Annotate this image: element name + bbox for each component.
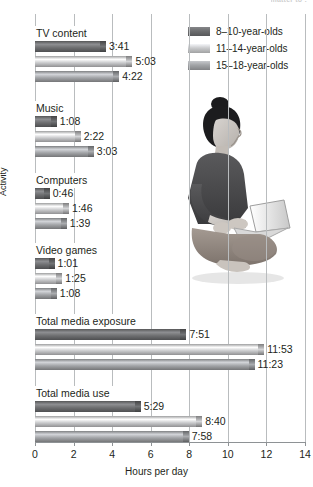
- x-tick: [35, 442, 36, 446]
- x-tick-label: 2: [71, 448, 77, 460]
- bar-value-label: 1:01: [58, 257, 78, 269]
- bar[interactable]: [35, 71, 119, 82]
- gridline: [266, 14, 267, 442]
- bar[interactable]: [35, 146, 94, 157]
- x-tick: [74, 442, 75, 446]
- bar[interactable]: [35, 131, 81, 142]
- bar-end-cap: [44, 188, 50, 199]
- bar-value-label: 1:08: [60, 287, 80, 299]
- x-tick-label: 6: [148, 448, 154, 460]
- bar-end-cap: [183, 431, 189, 442]
- bar-end-cap: [75, 131, 81, 142]
- group-label: Total media use: [33, 386, 114, 401]
- bar[interactable]: [35, 56, 132, 67]
- bar[interactable]: [35, 188, 50, 199]
- x-tick: [266, 442, 267, 446]
- bar-value-label: 1:08: [60, 115, 80, 127]
- bar[interactable]: [35, 329, 186, 340]
- bar-value-label: 11:23: [258, 358, 284, 370]
- y-axis-label: Activity: [0, 167, 8, 196]
- group-label: Music: [33, 101, 67, 116]
- x-tick: [305, 442, 306, 446]
- x-tick: [151, 442, 152, 446]
- group-label: Computers: [33, 173, 91, 188]
- x-tick-label: 4: [109, 448, 115, 460]
- bar[interactable]: [35, 431, 189, 442]
- bar-value-label: 1:46: [72, 202, 92, 214]
- bar[interactable]: [35, 258, 55, 269]
- group-label: Total media exposure: [33, 314, 140, 329]
- bar-value-label: 7:58: [192, 430, 212, 442]
- bar-end-cap: [126, 56, 132, 67]
- bar-end-cap: [196, 416, 202, 427]
- bar[interactable]: [35, 116, 57, 127]
- bar[interactable]: [35, 416, 202, 427]
- x-tick: [228, 442, 229, 446]
- gridline: [305, 14, 306, 442]
- x-axis-label: Hours per day: [0, 466, 313, 477]
- bar-end-cap: [49, 258, 55, 269]
- x-tick-label: 0: [32, 448, 38, 460]
- x-tick: [189, 442, 190, 446]
- x-tick: [112, 442, 113, 446]
- bar[interactable]: [35, 41, 106, 52]
- bar-end-cap: [100, 41, 106, 52]
- bar-value-label: 0:46: [53, 187, 73, 199]
- media-use-bar-chart: matter to :: [0, 0, 313, 487]
- bar[interactable]: [35, 218, 67, 229]
- bar-value-label: 5:29: [144, 400, 164, 412]
- bar[interactable]: [35, 359, 255, 370]
- bar[interactable]: [35, 203, 69, 214]
- bar-value-label: 5:03: [135, 55, 155, 67]
- bar-value-label: 1:39: [70, 217, 90, 229]
- bar-value-label: 3:03: [97, 145, 117, 157]
- bar-end-cap: [258, 344, 264, 355]
- bar-end-cap: [180, 329, 186, 340]
- bar[interactable]: [35, 288, 57, 299]
- bar-value-label: 8:40: [205, 415, 225, 427]
- x-tick-label: 14: [299, 448, 311, 460]
- bar-end-cap: [51, 288, 57, 299]
- bar-end-cap: [135, 401, 141, 412]
- plot-area: TV content3:415:034:22Music1:082:223:03C…: [35, 14, 305, 442]
- bar-end-cap: [88, 146, 94, 157]
- bar-end-cap: [61, 218, 67, 229]
- x-axis-line: [35, 442, 306, 443]
- bar-value-label: 7:51: [189, 328, 209, 340]
- bar-end-cap: [51, 116, 57, 127]
- gridline: [228, 14, 229, 442]
- bar-end-cap: [63, 203, 69, 214]
- bar-value-label: 3:41: [109, 40, 129, 52]
- bar[interactable]: [35, 401, 141, 412]
- bar[interactable]: [35, 273, 62, 284]
- x-tick-label: 10: [222, 448, 234, 460]
- bar-end-cap: [249, 359, 255, 370]
- group-label: TV content: [33, 26, 91, 41]
- x-tick-label: 8: [186, 448, 192, 460]
- bar-end-cap: [56, 273, 62, 284]
- x-tick-label: 12: [261, 448, 273, 460]
- bar-value-label: 11:53: [267, 343, 293, 355]
- gridline: [189, 14, 190, 442]
- gridline: [151, 14, 152, 442]
- bar[interactable]: [35, 344, 264, 355]
- bar-value-label: 2:22: [84, 130, 104, 142]
- group-label: Video games: [33, 243, 101, 258]
- cut-off-header-text: matter to :: [271, 0, 307, 2]
- bar-value-label: 4:22: [122, 70, 142, 82]
- bar-value-label: 1:25: [65, 272, 85, 284]
- bar-end-cap: [113, 71, 119, 82]
